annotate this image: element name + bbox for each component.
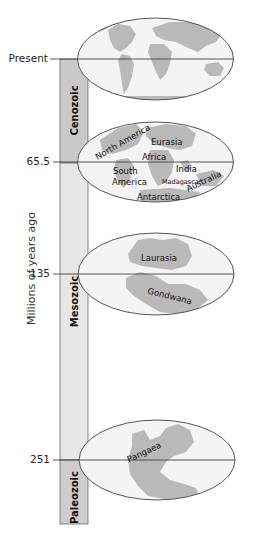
tick-label-65-5: 65.5	[0, 155, 50, 167]
continental-drift-diagram: Present 65.5 135 251 Millions of years a…	[0, 0, 257, 538]
y-axis-label: Millions of years ago	[25, 194, 38, 344]
label-laurasia: Laurasia	[141, 254, 177, 263]
label-africa: Africa	[142, 153, 166, 162]
era-label-cenozoic: Cenozoic	[69, 81, 80, 141]
label-antarctica: Antarctica	[137, 193, 180, 202]
map-135	[78, 233, 234, 315]
map-present	[78, 18, 234, 104]
tick-label-251: 251	[0, 453, 50, 465]
label-india: India	[176, 165, 197, 174]
label-eurasia: Eurasia	[151, 138, 182, 147]
era-label-mesozoic: Mesozoic	[69, 272, 80, 332]
tick-label-present: Present	[0, 52, 48, 64]
label-south: South	[113, 167, 138, 176]
map-251	[79, 420, 235, 500]
label-america: America	[112, 178, 147, 187]
era-label-paleozoic: Paleozoic	[69, 468, 80, 528]
map-65-5	[78, 122, 234, 202]
